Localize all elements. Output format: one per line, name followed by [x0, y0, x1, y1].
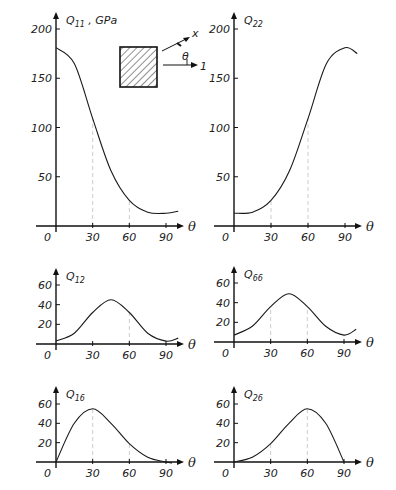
chart-q16: 0306090204060θQ16 — [36, 386, 196, 480]
data-curve — [56, 409, 172, 463]
chart-panels: 030609050100150200θQ11 , GPa030609050100… — [31, 12, 374, 480]
x-tick-label: 90 — [159, 231, 173, 244]
chart-q26: 0306090204060θQ26 — [214, 386, 374, 480]
x-axis-arrowhead-icon — [177, 341, 184, 347]
y-tick-label: 60 — [38, 279, 52, 292]
data-curve — [234, 409, 344, 462]
x-tick-label: 30 — [264, 347, 278, 360]
hatched-lamina-square — [120, 47, 157, 87]
x-tick-label: 30 — [86, 467, 100, 480]
y-tick-label: 40 — [216, 417, 230, 430]
y-tick-label: 100 — [31, 122, 52, 135]
x-tick-label: 90 — [159, 349, 173, 362]
x-tick-label: 0 — [222, 347, 229, 360]
data-curve — [56, 48, 178, 214]
x-tick-label: 30 — [86, 231, 100, 244]
y-tick-label: 20 — [216, 316, 230, 329]
chart-q22: 030609050100150200θQ22 — [209, 12, 374, 244]
y-tick-label: 200 — [209, 23, 230, 36]
y-tick-label: 40 — [38, 299, 52, 312]
y-axis-arrowhead-icon — [53, 386, 59, 393]
angle-mark — [177, 43, 181, 46]
data-curve — [56, 300, 178, 341]
x-axis-label: θ — [366, 335, 374, 350]
x-tick-label: 60 — [300, 467, 314, 480]
x-tick-label: 60 — [122, 231, 136, 244]
x-axis-label: θ — [188, 455, 196, 470]
chart-title: Q11 , GPa — [66, 14, 118, 29]
y-tick-label: 40 — [216, 297, 230, 310]
chart-title: Q26 — [244, 388, 263, 403]
y-axis-arrowhead-icon — [231, 266, 237, 273]
y-tick-label: 200 — [31, 23, 52, 36]
x-tick-label: 60 — [301, 231, 315, 244]
y-tick-label: 60 — [216, 398, 230, 411]
y-tick-label: 40 — [38, 417, 52, 430]
x-axis-arrowhead-icon — [177, 223, 184, 229]
y-axis-arrowhead-icon — [53, 12, 59, 19]
y-tick-label: 100 — [209, 122, 230, 135]
x-axis-arrowhead-icon — [355, 459, 362, 465]
x-tick-label: 90 — [159, 467, 173, 480]
y-tick-label: 60 — [216, 277, 230, 290]
data-curve — [234, 47, 357, 213]
x-tick-label: 30 — [264, 467, 278, 480]
x-axis-arrowhead-icon — [355, 339, 362, 345]
x-tick-label: 90 — [337, 347, 351, 360]
x-tick-label: 0 — [222, 231, 229, 244]
x-axis-label: θ — [188, 337, 196, 352]
y-axis-arrowhead-icon — [53, 268, 59, 275]
y-axis-arrowhead-icon — [231, 12, 237, 19]
inset-x-label: x — [191, 27, 199, 40]
chart-title: Q16 — [66, 388, 85, 403]
data-curve — [234, 294, 356, 335]
y-tick-label: 20 — [38, 437, 52, 450]
x-tick-label: 0 — [44, 467, 51, 480]
y-tick-label: 50 — [216, 171, 230, 184]
x-tick-label: 90 — [338, 231, 352, 244]
y-axis-arrowhead-icon — [231, 386, 237, 393]
x-tick-label: 0 — [44, 349, 51, 362]
y-tick-label: 20 — [216, 437, 230, 450]
y-tick-label: 50 — [38, 171, 52, 184]
x-tick-label: 60 — [122, 349, 136, 362]
arrowhead-icon — [191, 62, 198, 68]
y-tick-label: 150 — [31, 72, 52, 85]
y-tick-label: 150 — [209, 72, 230, 85]
inset-angle-label: θ — [182, 50, 189, 63]
x-axis-label: θ — [188, 219, 196, 234]
inset-ref-axis-label: 1 — [200, 60, 207, 73]
y-tick-label: 20 — [38, 318, 52, 331]
x-axis-arrowhead-icon — [177, 459, 184, 465]
x-axis-label: θ — [366, 219, 374, 234]
x-tick-label: 0 — [44, 231, 51, 244]
q-matrix-figure: 030609050100150200θQ11 , GPa030609050100… — [0, 0, 396, 490]
x-tick-label: 30 — [86, 349, 100, 362]
x-tick-label: 0 — [222, 467, 229, 480]
x-tick-label: 30 — [264, 231, 278, 244]
x-tick-label: 60 — [122, 467, 136, 480]
chart-q66: 0306090204060θQ66 — [214, 266, 374, 360]
x-axis-arrowhead-icon — [355, 223, 362, 229]
chart-q12: 0306090204060θQ12 — [36, 268, 196, 362]
chart-title: Q66 — [244, 268, 263, 283]
chart-title: Q22 — [244, 14, 263, 29]
x-tick-label: 90 — [337, 467, 351, 480]
x-tick-label: 60 — [300, 347, 314, 360]
lamina-inset-diagram: x 1 θ — [120, 27, 207, 87]
y-tick-label: 60 — [38, 398, 52, 411]
chart-title: Q12 — [66, 270, 85, 285]
x-axis-label: θ — [366, 455, 374, 470]
